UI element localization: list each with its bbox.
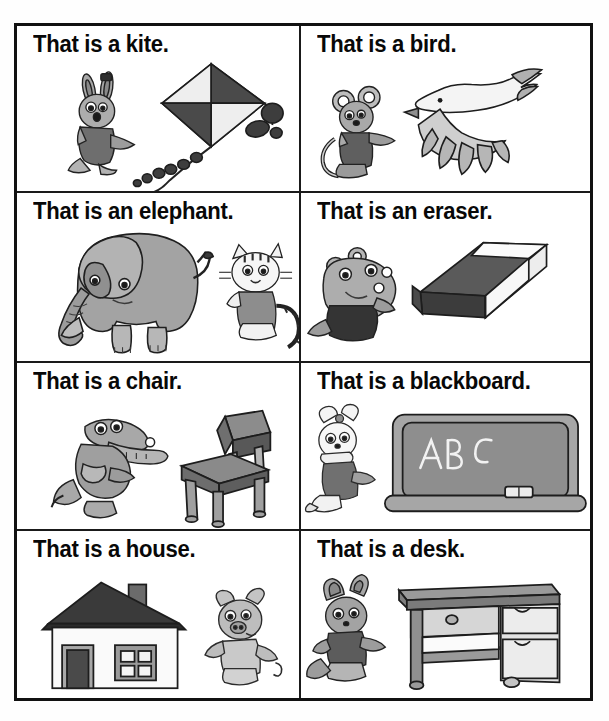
cell-caption-chair: That is a chair.: [33, 368, 182, 395]
worksheet-grid: That is a kite.: [14, 23, 593, 701]
cell-illustration-chair: [17, 393, 299, 529]
kite-icon: [133, 64, 283, 191]
rabbit-icon: [68, 71, 134, 175]
bird-icon: [405, 69, 542, 174]
mouse-icon: [323, 87, 395, 178]
cell-illustration-desk: [301, 561, 590, 698]
cell-illustration-elephant: [17, 223, 299, 361]
cell-illustration-bird: [301, 56, 590, 191]
worksheet-cell-house[interactable]: That is a house.: [17, 531, 301, 698]
elephant-icon: [59, 234, 213, 353]
cell-caption-desk: That is a desk.: [317, 536, 465, 563]
worksheet-cell-eraser[interactable]: That is an eraser.: [301, 193, 590, 363]
worksheet-cell-kite[interactable]: That is a kite.: [17, 26, 301, 193]
worksheet-cell-desk[interactable]: That is a desk.: [301, 531, 590, 698]
hippo-icon: [308, 248, 396, 341]
cell-illustration-blackboard: [301, 393, 590, 529]
chair-icon: [182, 411, 271, 527]
eraser-icon: [412, 243, 546, 318]
cell-caption-blackboard: That is a blackboard.: [317, 368, 531, 395]
cell-illustration-house: [17, 561, 299, 698]
worksheet-cell-blackboard[interactable]: That is a blackboard.: [301, 363, 590, 531]
cell-caption-kite: That is a kite.: [33, 31, 169, 58]
cell-caption-eraser: That is an eraser.: [317, 198, 492, 225]
cell-caption-house: That is a house.: [33, 536, 195, 563]
blackboard-icon: [385, 415, 586, 512]
fox-icon: [307, 575, 386, 681]
worksheet-cell-chair[interactable]: That is a chair.: [17, 363, 301, 531]
house-icon: [43, 583, 186, 689]
crocodile-icon: [52, 419, 168, 517]
desk-icon: [399, 584, 559, 689]
cell-illustration-eraser: [301, 223, 590, 361]
cat-icon: [219, 244, 299, 348]
bunny-icon: [306, 404, 375, 511]
worksheet-cell-bird[interactable]: That is a bird.: [301, 26, 590, 193]
pig-icon: [205, 588, 282, 684]
cell-caption-bird: That is a bird.: [317, 31, 456, 58]
worksheet-cell-elephant[interactable]: That is an elephant.: [17, 193, 301, 363]
cell-caption-elephant: That is an elephant.: [33, 198, 233, 225]
cell-illustration-kite: [17, 56, 299, 191]
